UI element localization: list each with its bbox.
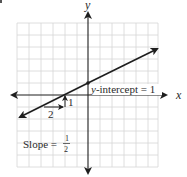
corner-mark (0, 0, 2, 3)
slope-triangle (44, 96, 65, 107)
rise-label: 1 (68, 96, 74, 108)
y-intercept-point (86, 81, 90, 85)
slope-label: Slope = (23, 138, 57, 150)
coordinate-plane: y x y-intercept = 1 2 1 Slope = 1 2 (0, 0, 187, 177)
slope-denominator: 2 (64, 145, 68, 154)
slope-numerator: 1 (65, 134, 69, 143)
run-label: 2 (48, 108, 54, 120)
y-intercept-label: y-intercept = 1 (90, 83, 155, 95)
x-axis-label: x (175, 88, 182, 102)
y-axis-label: y (84, 0, 91, 12)
